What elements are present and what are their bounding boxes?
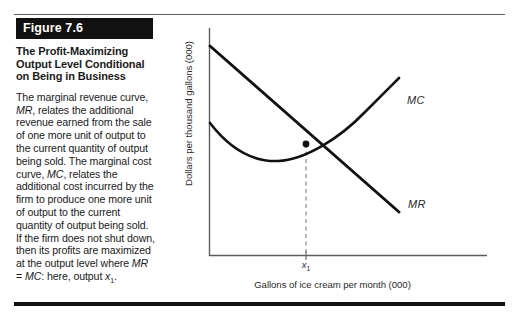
mc-curve	[210, 78, 399, 161]
top-divider-rule	[14, 14, 505, 15]
chart-plot-area: Dollars per thousand gallons (000) Gallo…	[160, 16, 505, 296]
figure-caption-column: Figure 7.6 The Profit-Maximizing Output …	[16, 18, 156, 288]
figure-title: The Profit-Maximizing Output Level Condi…	[16, 45, 156, 83]
equilibrium-point-marker	[303, 141, 310, 148]
figure-caption-text: The marginal revenue curve, MR, relates …	[16, 91, 156, 288]
chart-svg-canvas	[160, 16, 505, 296]
mr-line	[210, 46, 399, 212]
figure-number-badge: Figure 7.6	[16, 18, 153, 39]
bottom-divider-rule	[14, 302, 505, 306]
